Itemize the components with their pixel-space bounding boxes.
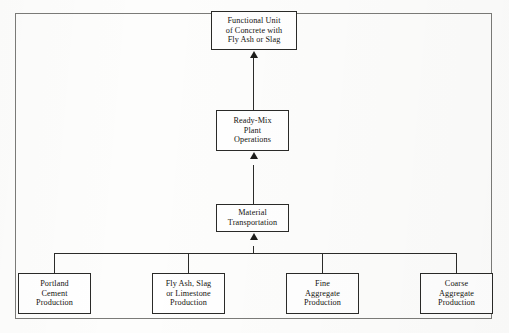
connector-transportation-to-readymix	[253, 165, 254, 205]
distribution-bus-horizontal	[54, 253, 457, 254]
fly-ash-slag-line-1: Fly Ash, Slag	[166, 279, 212, 289]
ready-mix-line-2: Plant	[244, 126, 261, 136]
portland-cement-node: Portland Cement Production	[18, 273, 91, 314]
ready-mix-line-1: Ready-Mix	[233, 116, 271, 126]
functional-unit-line-3: Fly Ash or Slag	[228, 35, 281, 45]
material-transportation-line-2: Transportation	[228, 218, 277, 228]
coarse-aggregate-line-1: Coarse	[445, 279, 468, 289]
portland-cement-line-1: Portland	[40, 279, 69, 289]
portland-cement-line-2: Cement	[41, 289, 67, 299]
coarse-aggregate-node: Coarse Aggregate Production	[420, 273, 493, 314]
material-transportation-line-1: Material	[238, 208, 267, 218]
material-transportation-node: Material Transportation	[216, 204, 289, 232]
connector-bus-to-fine-aggregate	[322, 253, 323, 273]
coarse-aggregate-line-2: Aggregate	[439, 289, 474, 299]
arrowhead-up-to-ready-mix	[250, 152, 258, 159]
arrowhead-up-to-functional-unit	[250, 51, 258, 58]
connector-bus-to-coarse-aggregate	[456, 253, 457, 273]
fine-aggregate-line-3: Production	[304, 298, 341, 308]
coarse-aggregate-line-3: Production	[438, 298, 475, 308]
fine-aggregate-line-1: Fine	[315, 279, 330, 289]
fine-aggregate-line-2: Aggregate	[305, 289, 340, 299]
functional-unit-line-1: Functional Unit	[227, 16, 280, 26]
fine-aggregate-node: Fine Aggregate Production	[286, 273, 359, 314]
ready-mix-node: Ready-Mix Plant Operations	[216, 110, 289, 151]
functional-unit-node: Functional Unit of Concrete with Fly Ash…	[211, 11, 297, 50]
fly-ash-slag-node: Fly Ash, Slag or Limestone Production	[152, 273, 225, 314]
functional-unit-line-2: of Concrete with	[226, 26, 283, 36]
arrowhead-up-to-material-transportation	[250, 233, 258, 240]
diagram-canvas: Functional Unit of Concrete with Fly Ash…	[0, 0, 509, 333]
portland-cement-line-3: Production	[36, 298, 73, 308]
fly-ash-slag-line-3: Production	[170, 298, 207, 308]
ready-mix-line-3: Operations	[234, 135, 271, 145]
connector-bus-to-fly-ash-slag	[188, 253, 189, 273]
fly-ash-slag-line-2: or Limestone	[166, 289, 211, 299]
connector-bus-to-portland-cement	[54, 253, 55, 273]
connector-readymix-to-functionalunit	[253, 58, 254, 110]
